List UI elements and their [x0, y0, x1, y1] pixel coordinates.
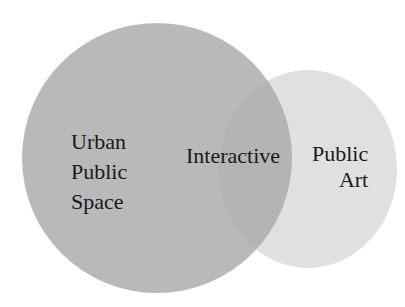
label-line: Urban [71, 127, 127, 157]
label-line: Art [312, 167, 368, 193]
venn-diagram: Urban Public Space Interactive Public Ar… [0, 0, 405, 307]
public-art-label: Public Art [312, 141, 368, 193]
intersection-label: Interactive [186, 141, 280, 171]
label-line: Public [71, 157, 127, 187]
label-line: Space [71, 187, 127, 217]
urban-public-space-label: Urban Public Space [71, 127, 127, 217]
label-line: Public [312, 141, 368, 167]
